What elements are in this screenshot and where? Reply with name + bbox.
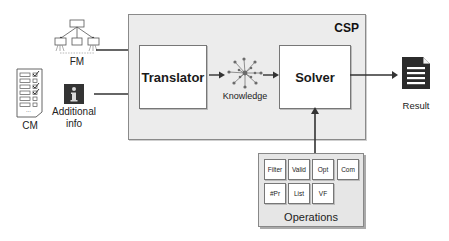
operation-valid: Valid <box>288 159 310 180</box>
configuration-model-icon: ... <box>16 68 44 118</box>
result-document-icon <box>401 56 431 90</box>
arrow-translator-to-knowledge <box>209 71 225 79</box>
translator-box: Translator <box>139 45 207 109</box>
arrow-solver-to-result <box>350 71 398 79</box>
operations-label: Operations <box>259 211 363 223</box>
arrow-operations-to-solver <box>310 107 320 155</box>
svg-text:...: ... <box>26 107 31 113</box>
knowledge-network-icon <box>227 57 263 89</box>
result-label: Result <box>396 100 436 111</box>
additional-info-label: Additional info <box>52 106 96 130</box>
translator-label: Translator <box>142 70 205 85</box>
operation-list: List <box>288 183 310 204</box>
csp-label: CSP <box>334 21 359 35</box>
knowledge-label: Knowledge <box>221 91 269 101</box>
operation-com: Com <box>337 159 359 180</box>
additional-info-line1: Additional <box>52 106 96 118</box>
cm-label: CM <box>16 120 44 131</box>
arrow-knowledge-to-solver <box>263 71 279 79</box>
operation-number-of-products: #Pr <box>264 183 286 204</box>
operations-container: Filter Valid Opt Com #Pr List VF Operati… <box>258 153 364 227</box>
operation-opt: Opt <box>312 159 334 180</box>
additional-info-line2: info <box>52 118 96 130</box>
info-icon <box>64 84 84 104</box>
operation-vf: VF <box>312 183 334 204</box>
csp-container: CSP Translator <box>128 14 366 140</box>
solver-box: Solver <box>279 45 351 109</box>
fm-label: FM <box>62 56 92 67</box>
operation-filter: Filter <box>264 159 286 180</box>
feature-model-icon <box>52 18 102 58</box>
solver-label: Solver <box>295 70 335 85</box>
